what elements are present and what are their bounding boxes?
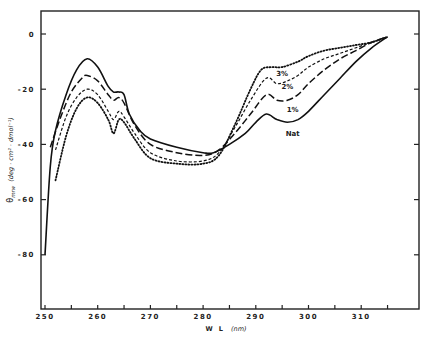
x-tick-label: 290 bbox=[246, 313, 265, 321]
y-tick-label: -60 bbox=[18, 196, 35, 204]
series-nat bbox=[45, 37, 388, 255]
x-axis-title: W L (nm) bbox=[205, 325, 246, 333]
curve-label: 1% bbox=[287, 106, 299, 114]
curve-label: 2% bbox=[281, 83, 293, 91]
x-tick-label: 250 bbox=[35, 313, 54, 321]
x-tick-label: 300 bbox=[299, 313, 318, 321]
y-tick-label: -20 bbox=[18, 86, 35, 94]
x-tick-label: 310 bbox=[352, 313, 371, 321]
series-curves bbox=[45, 37, 388, 255]
x-tick-label: 260 bbox=[88, 313, 107, 321]
series-3pct bbox=[56, 37, 388, 181]
y-tick-label: -40 bbox=[18, 141, 35, 149]
svg-text:θmrw(deg · cm² · dmol⁻¹): θmrw(deg · cm² · dmol⁻¹) bbox=[6, 117, 16, 203]
curve-label: Nat bbox=[286, 130, 301, 138]
x-axis: 250260270280290300310 bbox=[35, 305, 387, 321]
curve-label: 3% bbox=[276, 70, 288, 78]
x-tick-label: 270 bbox=[141, 313, 160, 321]
x-tick-label: 280 bbox=[194, 313, 213, 321]
y-tick-label: -80 bbox=[18, 251, 35, 259]
y-axis-title: θmrw(deg · cm² · dmol⁻¹) bbox=[6, 117, 16, 203]
series-2pct bbox=[56, 37, 388, 162]
cd-spectrum-chart: 0-20-40-60-80 250260270280290300310 3%2%… bbox=[0, 0, 430, 339]
y-axis: 0-20-40-60-80 bbox=[18, 31, 419, 260]
y-tick-label: 0 bbox=[29, 31, 35, 39]
